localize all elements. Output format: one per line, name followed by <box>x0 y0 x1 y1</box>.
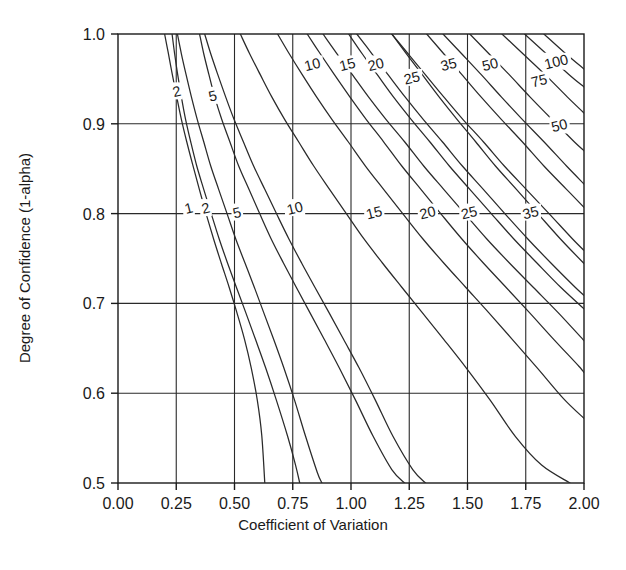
contour-label: 1 <box>183 199 195 217</box>
contour-label: 25 <box>459 203 479 222</box>
x-tick-label: 2.00 <box>568 495 599 512</box>
contour-label: 15 <box>337 55 357 74</box>
x-tick-labels: 0.000.250.500.751.001.251.501.752.00 <box>102 495 599 512</box>
x-tick-label: 1.75 <box>510 495 541 512</box>
y-tick-label: 1.0 <box>83 26 105 43</box>
x-tick-label: 1.25 <box>394 495 425 512</box>
contour-label: 5 <box>231 204 243 222</box>
chart-canvas: 1225510101515202025253535505075100 0.000… <box>0 0 626 570</box>
contour-label: 50 <box>549 116 569 135</box>
figure-contour-plot: 1225510101515202025253535505075100 0.000… <box>0 0 626 570</box>
contour-label: 20 <box>366 55 386 74</box>
y-tick-label: 0.6 <box>83 385 105 402</box>
contour-label: 25 <box>402 68 422 87</box>
y-tick-label: 0.9 <box>83 116 105 133</box>
y-axis-title: Degree of Confidence (1-alpha) <box>16 153 33 363</box>
contour-label: 10 <box>302 55 322 74</box>
contour-label: 35 <box>521 203 541 222</box>
contour-label: 100 <box>542 51 571 72</box>
x-tick-label: 1.50 <box>452 495 483 512</box>
x-axis-title: Coefficient of Variation <box>238 516 388 533</box>
contour-label: 2 <box>171 82 183 100</box>
contour-label: 35 <box>439 55 459 74</box>
x-tick-label: 0.50 <box>219 495 250 512</box>
y-tick-label: 0.7 <box>83 295 105 312</box>
x-tick-label: 0.00 <box>102 495 133 512</box>
contour-label: 20 <box>418 203 438 222</box>
contour-label: 5 <box>207 87 219 105</box>
y-tick-label: 0.5 <box>83 475 105 492</box>
contour-label: 15 <box>364 203 384 222</box>
contour-label: 10 <box>285 198 305 217</box>
contour-label: 2 <box>200 199 212 217</box>
x-tick-label: 0.75 <box>277 495 308 512</box>
y-tick-label: 0.8 <box>83 206 105 223</box>
x-tick-label: 1.00 <box>335 495 366 512</box>
contour-label: 75 <box>529 71 549 90</box>
x-tick-label: 0.25 <box>161 495 192 512</box>
contour-label: 50 <box>480 55 500 74</box>
